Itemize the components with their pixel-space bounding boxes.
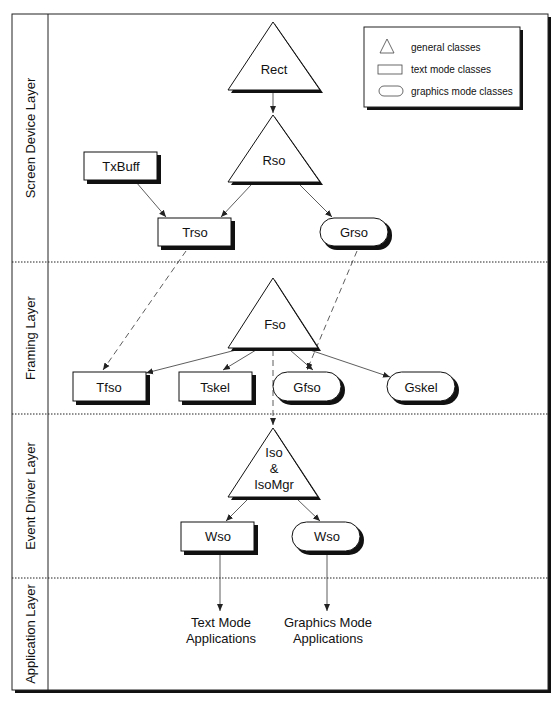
node-label-tskel: Tskel (200, 380, 230, 395)
node-grso[interactable]: Grso (320, 218, 392, 250)
layer-label-framing: Framing Layer (23, 295, 38, 379)
node-label-wso-text: Wso (205, 529, 231, 544)
node-label-tfso: Tfso (96, 380, 121, 395)
layer-label-event-driver: Event Driver Layer (23, 442, 38, 550)
node-text-mode-applications: Text Mode Applications (186, 615, 257, 646)
node-label-trso: Trso (182, 225, 208, 240)
node-txbuff[interactable]: TxBuff (84, 152, 161, 184)
node-label-rso: Rso (262, 153, 285, 168)
node-graphics-mode-applications: Graphics Mode Applications (284, 615, 372, 646)
node-label-gfso: Gfso (293, 380, 320, 395)
node-label-iso-line-1: Iso (265, 445, 282, 460)
node-label-iso-line-3: IsoMgr (254, 477, 294, 492)
node-gfso[interactable]: Gfso (273, 372, 345, 405)
node-label-wso-graphics: Wso (314, 529, 340, 544)
rounded-legend-icon (379, 86, 403, 96)
node-label-rect: Rect (261, 62, 288, 77)
node-wso-graphics[interactable]: Wso (292, 522, 364, 555)
node-wso-text[interactable]: Wso (181, 522, 258, 555)
text-apps-line-1: Text Mode (191, 615, 251, 630)
node-tskel[interactable]: Tskel (179, 372, 256, 405)
legend: general classes text mode classes graphi… (364, 27, 523, 110)
node-label-txbuff: TxBuff (102, 159, 140, 174)
node-label-grso: Grso (340, 225, 368, 240)
class-hierarchy-diagram: Screen Device Layer Framing Layer Event … (0, 0, 556, 704)
node-label-gskel: Gskel (404, 380, 437, 395)
graphics-apps-line-1: Graphics Mode (284, 615, 372, 630)
node-gskel[interactable]: Gskel (387, 372, 459, 405)
text-apps-line-2: Applications (186, 631, 257, 646)
rectangle-legend-icon (378, 65, 402, 74)
legend-label-general: general classes (411, 42, 480, 53)
layer-label-screen-device: Screen Device Layer (23, 77, 38, 198)
node-label-fso: Fso (264, 317, 286, 332)
legend-label-text-mode: text mode classes (411, 64, 491, 75)
node-label-iso-line-2: & (270, 461, 279, 476)
graphics-apps-line-2: Applications (293, 631, 364, 646)
layer-label-application: Application Layer (23, 583, 38, 683)
node-tfso[interactable]: Tfso (73, 372, 150, 405)
diagram-frame (12, 14, 551, 693)
legend-label-graphics-mode: graphics mode classes (411, 86, 513, 97)
node-trso[interactable]: Trso (158, 218, 235, 250)
